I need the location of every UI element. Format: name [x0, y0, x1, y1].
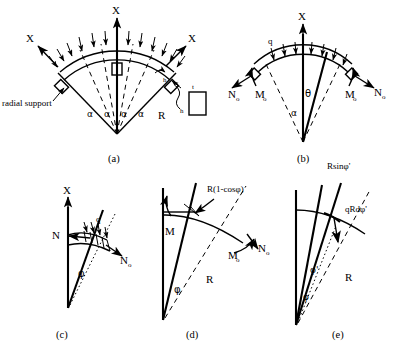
panel-c-n0-label: N — [120, 254, 128, 266]
panel-b-axis-x-label: X — [298, 10, 306, 22]
panel-c-phi-label: φ — [78, 268, 85, 279]
panel-c-reference-line — [70, 212, 116, 305]
figure-canvas: X — [0, 0, 400, 351]
panel-d-n0-label: N — [258, 242, 266, 254]
panel-b-caption: (b) — [297, 153, 310, 165]
panel-e-caption: (e) — [332, 329, 344, 341]
panel-b: X q N o M o N o — [228, 10, 386, 165]
panel-e-phi-prime-label: φ' — [310, 265, 318, 275]
panel-a-left-edge — [58, 73, 117, 134]
panel-a-section-rect — [189, 92, 206, 115]
panel-a-thickness-t-label: t — [192, 83, 194, 91]
panel-d-n0-sub: o — [266, 249, 270, 257]
panel-d-m-arrow — [166, 196, 171, 216]
panel-a-h-label-arch: h — [163, 76, 167, 84]
panel-a-caption: (a) — [108, 153, 120, 165]
panel-b-alpha-label: α — [291, 108, 297, 118]
panel-b-n0-left-arrow — [232, 76, 251, 88]
panel-c: X q N N o φ (c) — [52, 184, 132, 341]
panel-a-alpha-2: α — [104, 109, 110, 119]
panel-b-n0-right-label: N — [374, 86, 382, 98]
panel-b-load-q-label: q — [268, 36, 273, 46]
panel-a: X — [2, 4, 206, 165]
arch-analysis-figure: X — [0, 0, 400, 351]
panel-d-caption: (d) — [186, 329, 199, 341]
panel-a-axis-x-left-label: X — [26, 32, 34, 44]
panel-e-rsinphi-label: Rsinφ' — [327, 161, 351, 171]
panel-c-n-label: N — [52, 229, 60, 241]
panel-b-right-end-block — [345, 68, 357, 80]
panel-d: M R(1-cosφ) M o N o R φ (d) — [163, 183, 270, 341]
panel-d-m-label: M — [165, 225, 175, 237]
panel-d-n0-arrow — [247, 234, 258, 249]
panel-a-axis-x-right-label: X — [188, 32, 196, 44]
panel-c-n-arrow — [69, 236, 90, 238]
panel-e-load-arrow — [334, 218, 338, 242]
panel-a-axis-x-top-label: X — [112, 4, 120, 16]
panel-d-m0-sub: o — [236, 256, 240, 264]
panel-e-phi-label: φ — [303, 292, 309, 302]
panel-b-m0-left-arrow — [252, 68, 257, 86]
panel-a-alpha-3: α — [121, 109, 127, 119]
panel-a-axis-x-right-arrow — [166, 46, 186, 66]
panel-b-n0-left-label: N — [228, 88, 236, 100]
panel-d-arm-label: R(1-cosφ) — [207, 184, 244, 194]
panel-c-caption: (c) — [56, 329, 68, 341]
panel-d-inclined-line — [163, 183, 196, 320]
panel-c-load-q-label: q — [96, 214, 101, 224]
panel-a-axis-x-left-arrow — [38, 46, 58, 67]
panel-a-height-h-label: h — [180, 107, 184, 115]
panel-d-arm-leader — [195, 199, 214, 213]
panel-d-phi-label: φ — [174, 284, 181, 295]
panel-d-radius-label: R — [206, 273, 214, 285]
panel-a-alpha-4: α — [138, 109, 144, 119]
panel-a-alpha-1: α — [87, 109, 93, 119]
panel-b-m0-left-sub: o — [263, 95, 267, 103]
panel-b-n0-right-arrow — [355, 76, 374, 88]
panel-e-radius-label: R — [345, 271, 353, 283]
panel-c-n0-sub: o — [128, 261, 132, 269]
panel-a-radial-support-label: radial support — [2, 98, 52, 108]
panel-b-left-end-block — [248, 68, 260, 80]
panel-a-section-leader — [176, 86, 180, 109]
panel-b-theta-label: θ — [305, 88, 311, 99]
panel-a-radius-label: R — [158, 109, 166, 121]
panel-a-right-edge — [117, 73, 176, 134]
panel-b-n0-right-sub: o — [382, 93, 386, 101]
panel-b-n0-left-sub: o — [236, 95, 240, 103]
panel-d-arch-curve — [163, 215, 243, 243]
panel-e: qRdφ' Rsinφ' R φ' φ (e) — [296, 161, 370, 341]
panel-e-load-increment-label: qRdφ' — [345, 204, 367, 214]
panel-b-dash-left — [265, 62, 303, 142]
panel-c-axis-x-label: X — [63, 184, 71, 196]
panel-b-m0-right-sub: o — [353, 95, 357, 103]
